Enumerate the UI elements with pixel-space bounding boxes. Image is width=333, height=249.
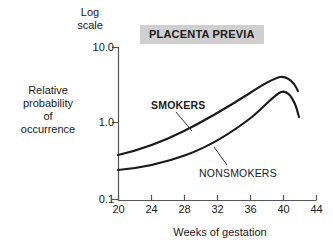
y-axis-scale-note-line1: Log — [81, 6, 99, 18]
chart-title: PLACENTA PREVIA — [140, 25, 264, 44]
series-line-nonsmokers — [118, 92, 299, 170]
x-axis-tick-label-28: 28 — [172, 203, 198, 216]
y-axis-title-line2: probability — [23, 97, 73, 109]
y-axis-title: Relativeprobabilityofoccurrence — [2, 84, 94, 136]
x-axis-tick-label-24: 24 — [139, 203, 165, 216]
y-axis-tick-label-10: 10.0 — [72, 41, 114, 54]
y-axis-scale-note: Logscale — [62, 6, 118, 32]
chart-figure: Logscale 10.0 1.0 0.1 Relativeprobabilit… — [0, 0, 333, 249]
series-label-nonsmokers: NONSMOKERS — [199, 167, 277, 179]
x-axis-title: Weeks of gestation — [140, 226, 300, 239]
y-axis-scale-note-line2: scale — [77, 19, 103, 31]
smokers-leader-line — [176, 112, 192, 131]
series-line-smokers — [118, 77, 298, 155]
x-axis-tick-label-36: 36 — [238, 203, 264, 216]
x-axis-tick-label-44: 44 — [304, 203, 330, 216]
x-axis-tick-label-20: 20 — [106, 203, 132, 216]
x-axis-tick-label-40: 40 — [271, 203, 297, 216]
x-tick-marks — [119, 195, 317, 201]
series-label-smokers: SMOKERS — [151, 99, 206, 111]
y-axis-title-line4: occurrence — [21, 123, 75, 135]
x-axis-tick-label-32: 32 — [205, 203, 231, 216]
nonsmokers-leader-line — [214, 147, 227, 165]
y-axis-title-line3: of — [43, 110, 52, 122]
y-axis-title-line1: Relative — [28, 84, 68, 96]
